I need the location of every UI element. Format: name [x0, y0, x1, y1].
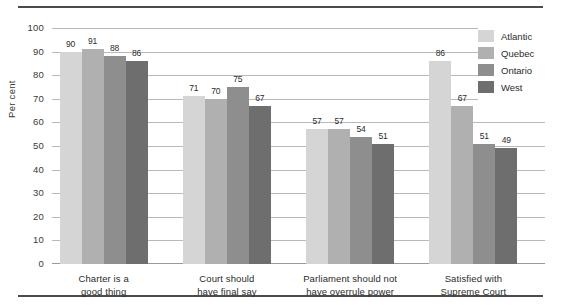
bar-fill: [451, 106, 473, 264]
legend-item[interactable]: Ontario: [478, 62, 556, 78]
bar-value-label: 54: [356, 124, 365, 134]
bar[interactable]: 67: [249, 106, 271, 264]
bar-fill: [372, 144, 394, 264]
bar-value-label: 86: [436, 48, 445, 58]
bar-fill: [205, 99, 227, 264]
y-tick-label: 60: [0, 116, 44, 127]
bar[interactable]: 54: [350, 137, 372, 264]
bar-value-label: 75: [233, 74, 242, 84]
bar[interactable]: 49: [495, 148, 517, 264]
top-rule: [18, 6, 543, 8]
bar[interactable]: 71: [183, 96, 205, 264]
bar[interactable]: 57: [328, 129, 350, 264]
bar-value-label: 67: [255, 93, 264, 103]
bar-fill: [104, 56, 126, 264]
bar-value-label: 70: [211, 86, 220, 96]
bar[interactable]: 67: [451, 106, 473, 264]
legend-label: Ontario: [501, 65, 532, 76]
chart-page: Per cent 1009080706050403020100 90918886…: [0, 0, 561, 305]
bar-fill: [495, 148, 517, 264]
y-tick-label: 0: [0, 258, 44, 269]
y-tick-label: 10: [0, 234, 44, 245]
legend-swatch: [478, 81, 494, 93]
category-label-line: Supreme Court: [398, 285, 548, 298]
bar-fill: [126, 61, 148, 264]
bar-group: 57575451: [306, 28, 394, 264]
bar-fill: [328, 129, 350, 264]
legend-item[interactable]: West: [478, 79, 556, 95]
bar-fill: [82, 49, 104, 264]
legend-label: West: [501, 82, 522, 93]
bar-value-label: 57: [312, 116, 321, 126]
bar-fill: [473, 144, 495, 264]
bar-fill: [429, 61, 451, 264]
bar-fill: [183, 96, 205, 264]
bar-value-label: 57: [334, 116, 343, 126]
bar-value-label: 49: [502, 135, 511, 145]
bar-group: 71707567: [183, 28, 271, 264]
y-tick-label: 40: [0, 164, 44, 175]
bar-fill: [306, 129, 328, 264]
bar[interactable]: 70: [205, 99, 227, 264]
legend-swatch: [478, 47, 494, 59]
y-tick-label: 50: [0, 140, 44, 151]
bar[interactable]: 57: [306, 129, 328, 264]
y-tick-label: 80: [0, 69, 44, 80]
bar[interactable]: 86: [126, 61, 148, 264]
y-tick-label: 100: [0, 22, 44, 33]
bar[interactable]: 51: [473, 144, 495, 264]
legend-swatch: [478, 64, 494, 76]
bar[interactable]: 90: [60, 52, 82, 264]
category-label-line: Satisfied with: [398, 272, 548, 285]
legend-item[interactable]: Quebec: [478, 45, 556, 61]
bar-group: 90918886: [60, 28, 148, 264]
bar[interactable]: 75: [227, 87, 249, 264]
legend-item[interactable]: Atlantic: [478, 28, 556, 44]
y-tick-label: 70: [0, 93, 44, 104]
bar-fill: [350, 137, 372, 264]
bar-fill: [60, 52, 82, 264]
bar[interactable]: 91: [82, 49, 104, 264]
bar-value-label: 51: [378, 131, 387, 141]
bar-value-label: 67: [458, 93, 467, 103]
category-label: Satisfied withSupreme Court: [398, 272, 548, 298]
bar-value-label: 51: [480, 131, 489, 141]
bar[interactable]: 88: [104, 56, 126, 264]
bar-value-label: 91: [88, 36, 97, 46]
plot-area: 90918886717075675757545186675149: [52, 28, 545, 264]
bar-fill: [249, 106, 271, 264]
legend-label: Atlantic: [501, 31, 532, 42]
bar-value-label: 71: [189, 83, 198, 93]
y-tick-label: 90: [0, 46, 44, 57]
bar[interactable]: 86: [429, 61, 451, 264]
legend-label: Quebec: [501, 48, 534, 59]
legend: AtlanticQuebecOntarioWest: [478, 24, 556, 100]
bar[interactable]: 51: [372, 144, 394, 264]
bar-value-label: 90: [66, 39, 75, 49]
bar-value-label: 86: [132, 48, 141, 58]
bar-fill: [227, 87, 249, 264]
legend-swatch: [478, 30, 494, 42]
bar-value-label: 88: [110, 43, 119, 53]
y-tick-label: 30: [0, 187, 44, 198]
y-tick-label: 20: [0, 211, 44, 222]
